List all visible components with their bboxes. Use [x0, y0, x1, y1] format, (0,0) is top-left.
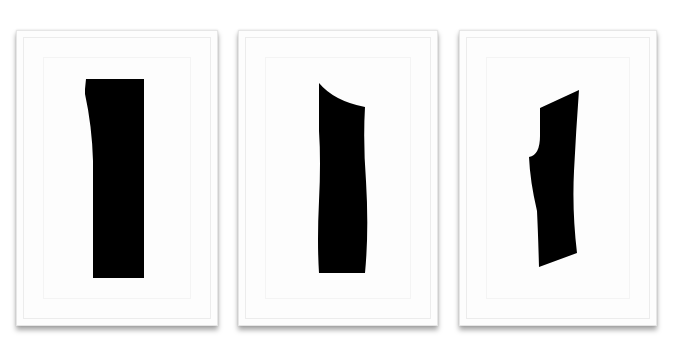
black-shape-1 — [17, 31, 219, 327]
black-shape-3 — [460, 31, 658, 327]
artwork-frame-2 — [238, 30, 438, 326]
black-shape-2 — [239, 31, 439, 327]
artwork-frame-1 — [16, 30, 218, 326]
artwork-frame-3 — [459, 30, 657, 326]
